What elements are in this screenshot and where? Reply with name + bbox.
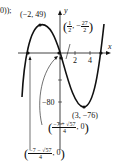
- y-intercept-label: (12, −272): [63, 20, 93, 33]
- root-minus-label: (−7 − √574, 0): [24, 147, 65, 160]
- min-point-label: (3, −76): [72, 111, 98, 120]
- x-tick-2: 2: [73, 56, 77, 65]
- prefix-text: 0));: [0, 6, 12, 15]
- max-point-label: (−2, 49): [20, 10, 46, 19]
- x-axis-label: x: [108, 42, 112, 51]
- y-tick-neg80: −80: [42, 98, 55, 107]
- cubic-curve: [22, 24, 104, 107]
- x-tick-4: 4: [88, 56, 92, 65]
- graph: [0, 0, 115, 166]
- root-plus-label: (−7 + √574, 0): [48, 121, 89, 134]
- y-axis-label: y: [64, 6, 68, 15]
